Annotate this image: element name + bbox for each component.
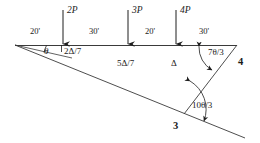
diagram-canvas xyxy=(0,0,260,143)
load-label-2p: 2P xyxy=(67,6,78,16)
dimension-label-3: 20' xyxy=(145,27,155,36)
beam-diagram-figure: 20' 30' 20' 30' 2P 3P 4P θ 7θ/3 10θ/3 2Δ… xyxy=(0,0,260,143)
angle-label-theta: θ xyxy=(44,47,48,56)
load-label-3p: 3P xyxy=(132,6,143,16)
load-label-4p: 4P xyxy=(180,6,191,16)
dimension-label-1: 20' xyxy=(30,27,40,36)
angle-label-7theta-3: 7θ/3 xyxy=(208,48,224,57)
node-label-4: 4 xyxy=(238,57,243,68)
angle-label-10theta-3: 10θ/3 xyxy=(192,101,212,110)
deflection-label-3: Δ xyxy=(171,59,177,68)
dimension-label-2: 30' xyxy=(89,27,99,36)
deflection-label-2: 5Δ/7 xyxy=(117,59,134,68)
node-label-3: 3 xyxy=(173,121,178,132)
deflection-label-1: 2Δ/7 xyxy=(64,47,81,56)
dimension-label-4: 30' xyxy=(199,27,209,36)
